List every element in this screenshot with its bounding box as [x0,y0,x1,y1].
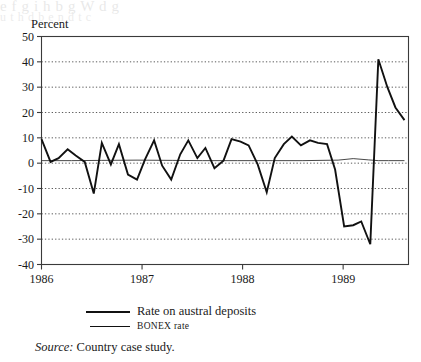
y-axis-tick-label: 30 [22,80,34,94]
y-axis-tick-label: -20 [18,207,34,221]
figure-container: e f g i h b g W d g u t h d b e n d t c … [0,0,421,362]
legend-item-bonex-rate: BONEX rate [86,320,386,333]
legend-label-austral-deposits: Rate on austral deposits [137,305,256,318]
legend-label-bonex-text: BONEX rate [137,321,189,331]
y-axis-tick-label: 50 [22,30,34,44]
x-axis-tick-label: 1988 [231,272,255,286]
plot-frame [42,37,409,265]
x-axis-tick-label: 1987 [130,272,154,286]
legend-label-bonex-rate: BONEX rate [137,320,189,333]
legend-swatch-line-thick [86,311,130,313]
y-axis-tick-label: 10 [22,131,34,145]
source-note: Source: Country case study. [35,340,175,355]
chart-legend: Rate on austral deposits BONEX rate [86,305,386,335]
legend-swatch-line-thin [90,326,130,327]
source-prefix: Source: [35,340,73,354]
y-axis-tick-label: -40 [18,258,34,272]
y-axis-tick-label: 40 [22,55,34,69]
y-axis-tick-label: 0 [28,156,34,170]
y-axis-tick-label: -30 [18,232,34,246]
y-axis-tick-label: -10 [18,182,34,196]
x-axis-tick-label: 1989 [331,272,355,286]
x-axis-tick-label: 1986 [30,272,54,286]
legend-item-austral-deposits: Rate on austral deposits [86,305,386,318]
source-text: Country case study. [77,340,175,354]
y-axis-tick-label: 20 [22,106,34,120]
